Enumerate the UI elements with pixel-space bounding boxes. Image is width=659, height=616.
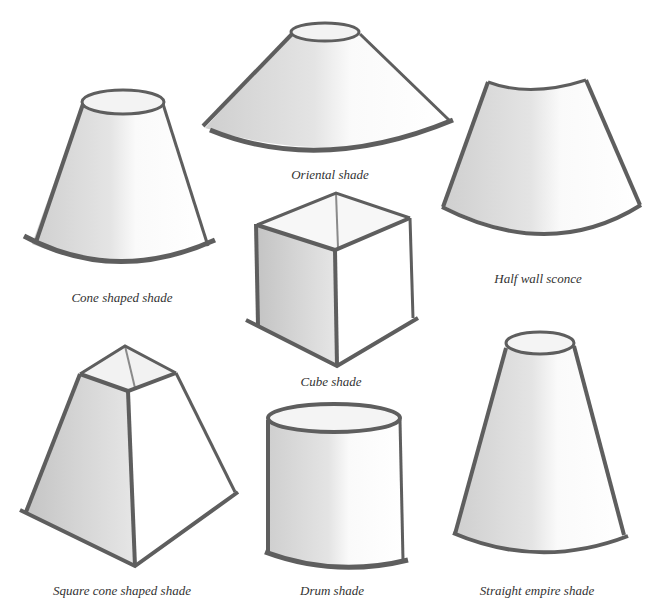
caption-half-wall-sconce: Half wall sconce [494, 271, 581, 287]
caption-cube-shade: Cube shade [300, 374, 361, 390]
caption-oriental-shade: Oriental shade [291, 167, 369, 183]
half-wall-sconce-drawing [442, 80, 641, 234]
lampshade-illustration [0, 0, 659, 616]
oriental-shade-drawing [203, 23, 453, 150]
caption-straight-empire-shade: Straight empire shade [480, 583, 594, 599]
square-cone-shade-drawing [20, 346, 238, 566]
straight-empire-shade-drawing [453, 332, 628, 552]
caption-square-cone-shade: Square cone shaped shade [53, 583, 191, 599]
cone-shade-drawing [24, 90, 215, 263]
drum-shade-drawing [265, 404, 408, 568]
caption-drum-shade: Drum shade [300, 583, 364, 599]
cube-shade-drawing [246, 193, 418, 366]
caption-cone-shade: Cone shaped shade [71, 290, 172, 306]
